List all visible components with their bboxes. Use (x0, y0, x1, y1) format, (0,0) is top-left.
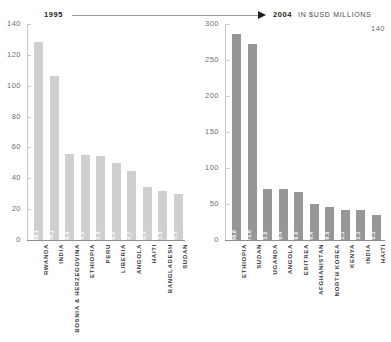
bar: 35.1 (372, 215, 381, 240)
y-axis-ticks-2004: 300250200150100500 (196, 24, 225, 240)
plot-area-1995: 140120100806040200 128.1106.156.054.954.… (0, 24, 190, 240)
header-year-2004: 2004 (273, 10, 292, 20)
bar: 56.0 (65, 154, 74, 240)
bar: 42.1 (341, 210, 350, 240)
x-axis-line-2004 (225, 240, 385, 241)
header-unit-label: IN $USD MILLIONS (298, 10, 371, 20)
category-label-text: NORTH KOREA (333, 244, 340, 296)
bar: 44.7 (127, 171, 136, 240)
category-labels-2004: ETHIOPIASUDANUGANDAANGOLAERITREAAFGHANIS… (229, 244, 384, 342)
category-label-text: AFGHANISTAN (318, 244, 325, 295)
category-label-text: HAITI (151, 244, 158, 263)
category-label-text: LIBERIA (120, 244, 127, 273)
bar: 42.1 (356, 210, 365, 240)
bar-value-label: 106.1 (48, 230, 54, 244)
bar: 50.4 (310, 204, 319, 240)
y-tick-label: 250 (195, 55, 219, 64)
bar: 271.6 (248, 44, 257, 240)
y-tick-label: 300 (195, 19, 219, 28)
y-tick-label: 200 (195, 91, 219, 100)
bar: 106.1 (50, 76, 59, 240)
category-label-text: RWANDA (42, 244, 49, 275)
bars-group-1995: 128.1106.156.054.954.550.044.734.431.530… (31, 24, 186, 240)
right-triangle-arrow-icon (258, 11, 266, 19)
y-tick-label: 80 (0, 112, 21, 121)
bar-value-label: 286.6 (231, 230, 237, 244)
y-axis-line-1995 (27, 24, 28, 240)
bar: 66.0 (294, 192, 303, 240)
category-label-text: ERITREA (302, 244, 309, 275)
bar: 30.1 (174, 194, 183, 240)
bar: 128.1 (34, 42, 43, 240)
category-label-text: KENYA (349, 244, 356, 268)
category-label-text: ETHIOPIA (89, 244, 96, 278)
bar-value-label: 128.1 (33, 230, 39, 244)
y-tick-label: 120 (0, 50, 21, 59)
bar: 54.5 (96, 156, 105, 240)
dual-bar-chart-figure: 1995 2004 IN $USD MILLIONS 1401201008060… (0, 0, 391, 342)
x-axis-line-1995 (27, 240, 185, 241)
bar: 70.4 (279, 189, 288, 240)
bar: 34.4 (143, 187, 152, 240)
bar: 71.0 (263, 189, 272, 240)
y-axis-ticks-1995: 140120100806040200 (0, 24, 27, 240)
category-label-text: ANGOLA (287, 244, 294, 274)
y-tick-label: 0 (0, 235, 21, 244)
category-label-text: INDIA (58, 244, 65, 264)
bar: 46.5 (325, 207, 334, 240)
bar: 54.9 (81, 155, 90, 240)
y-tick-label: 50 (195, 199, 219, 208)
category-label-text: ANGOLA (135, 244, 142, 274)
bar: 50.0 (112, 163, 121, 240)
y-tick-label: 60 (0, 142, 21, 151)
category-label-text: SUDAN (256, 244, 263, 269)
y-tick-label: 20 (0, 204, 21, 213)
header-year-1995: 1995 (44, 10, 63, 20)
bar: 286.6 (232, 34, 241, 240)
bar: 31.5 (158, 191, 167, 240)
category-label-text: HAITI (380, 244, 387, 263)
y-tick-label: 100 (195, 163, 219, 172)
category-labels-1995: RWANDAINDIABOSNIA & HERZEGOVINAETHIOPIAP… (31, 244, 186, 342)
plot-area-2004: 140 300250200150100500 286.6271.671.070.… (196, 24, 391, 240)
category-label-text: PERU (104, 244, 111, 263)
header-rule (72, 15, 258, 16)
category-label-text: BANGLADESH (166, 244, 173, 293)
y-tick-label: 140 (0, 19, 21, 28)
category-label-text: SUDAN (182, 244, 189, 269)
category-label-text: UGANDA (271, 244, 278, 275)
category-label-text: INDIA (364, 244, 371, 264)
bars-group-2004: 286.6271.671.070.466.050.446.542.142.135… (229, 24, 384, 240)
y-tick-label: 150 (195, 127, 219, 136)
bar-value-label: 271.6 (246, 230, 252, 244)
category-label-text: BOSNIA & HERZEGOVINA (73, 244, 80, 333)
y-tick-label: 0 (195, 235, 219, 244)
category-label-text: ETHIOPIA (240, 244, 247, 278)
y-tick-label: 100 (0, 81, 21, 90)
y-tick-label: 40 (0, 173, 21, 182)
